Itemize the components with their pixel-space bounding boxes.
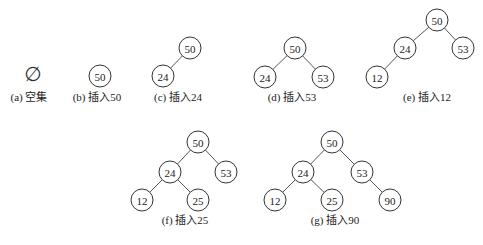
tree-node: 50 bbox=[187, 131, 209, 153]
panel-e: 50245312(e) 插入12 bbox=[366, 9, 474, 104]
node-value: 53 bbox=[318, 72, 330, 84]
binary-search-tree-insertion-diagram: ∅(a) 空集50(b) 插入505024(c) 插入24502453(d) 插… bbox=[0, 0, 483, 245]
tree-node: 12 bbox=[366, 66, 388, 88]
node-value: 24 bbox=[298, 167, 310, 179]
tree-edge bbox=[178, 180, 190, 192]
tree-node: 24 bbox=[159, 161, 181, 183]
empty-set-icon: ∅ bbox=[24, 62, 41, 86]
tree-node: 53 bbox=[312, 66, 334, 88]
tree-edge bbox=[178, 150, 191, 164]
tree-node: 24 bbox=[152, 65, 174, 87]
node-value: 50 bbox=[193, 137, 205, 149]
panel-caption: (e) 插入12 bbox=[403, 90, 451, 104]
panel-d: 502453(d) 插入53 bbox=[254, 37, 334, 104]
tree-node: 12 bbox=[131, 189, 153, 211]
tree-edge bbox=[206, 150, 219, 164]
tree-node: 12 bbox=[264, 189, 286, 211]
tree-edge bbox=[273, 56, 287, 70]
panel-a: ∅(a) 空集 bbox=[11, 62, 48, 104]
node-value: 25 bbox=[327, 195, 339, 207]
tree-edge bbox=[385, 56, 398, 69]
tree-edge bbox=[283, 180, 295, 192]
panel-g: 502453122590(g) 插入90 bbox=[264, 131, 401, 227]
panel-caption: (g) 插入90 bbox=[311, 213, 360, 227]
node-value: 90 bbox=[385, 195, 397, 207]
tree-node: 50 bbox=[284, 37, 306, 59]
tree-node: 53 bbox=[215, 161, 237, 183]
node-value: 12 bbox=[270, 195, 281, 207]
node-value: 53 bbox=[221, 167, 233, 179]
tree-node: 24 bbox=[292, 161, 314, 183]
node-value: 24 bbox=[165, 167, 177, 179]
tree-edge bbox=[150, 180, 162, 192]
node-value: 12 bbox=[372, 72, 383, 84]
panel-caption: (b) 插入50 bbox=[73, 90, 122, 104]
tree-node: 24 bbox=[394, 37, 416, 59]
tree-node: 53 bbox=[452, 37, 474, 59]
node-value: 53 bbox=[357, 167, 369, 179]
panel-caption: (c) 插入24 bbox=[154, 90, 202, 104]
tree-edge bbox=[340, 150, 354, 164]
tree-edge bbox=[311, 180, 324, 193]
tree-edge bbox=[171, 56, 183, 68]
tree-node: 53 bbox=[351, 161, 373, 183]
panel-b: 50(b) 插入50 bbox=[73, 65, 122, 104]
tree-node: 50 bbox=[179, 37, 201, 59]
panel-caption: (f) 插入25 bbox=[162, 213, 209, 227]
panel-c: 5024(c) 插入24 bbox=[152, 37, 202, 104]
panel-f: 5024531225(f) 插入25 bbox=[131, 131, 237, 227]
tree-edge bbox=[311, 150, 325, 164]
panel-caption: (a) 空集 bbox=[11, 90, 48, 104]
node-value: 24 bbox=[260, 72, 272, 84]
tree-edge bbox=[413, 27, 428, 41]
tree-edge bbox=[303, 56, 316, 69]
tree-edge bbox=[444, 28, 455, 40]
tree-node: 25 bbox=[321, 189, 343, 211]
tree-node: 50 bbox=[426, 9, 448, 31]
node-value: 50 bbox=[185, 43, 197, 55]
tree-node: 90 bbox=[379, 189, 401, 211]
tree-node: 50 bbox=[89, 65, 111, 87]
node-value: 24 bbox=[158, 71, 170, 83]
node-value: 50 bbox=[327, 137, 339, 149]
node-value: 25 bbox=[193, 195, 205, 207]
node-value: 12 bbox=[137, 195, 148, 207]
node-value: 53 bbox=[458, 43, 470, 55]
tree-node: 50 bbox=[321, 131, 343, 153]
tree-node: 24 bbox=[254, 66, 276, 88]
node-value: 50 bbox=[95, 71, 107, 83]
tree-edge bbox=[370, 180, 382, 192]
node-value: 24 bbox=[400, 43, 412, 55]
panel-caption: (d) 插入53 bbox=[268, 90, 317, 104]
node-value: 50 bbox=[432, 15, 444, 27]
node-value: 50 bbox=[290, 43, 302, 55]
tree-node: 25 bbox=[187, 189, 209, 211]
